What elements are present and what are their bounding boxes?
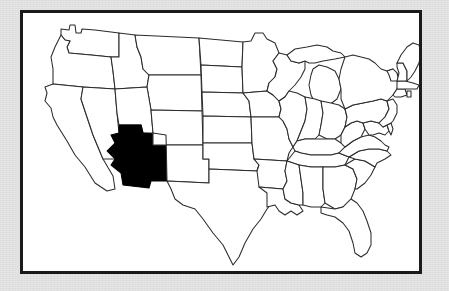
state-MA[interactable] [397,81,419,89]
state-NE[interactable] [202,92,251,117]
state-ND[interactable] [199,38,243,67]
state-KS[interactable] [203,116,252,143]
state-MT[interactable] [135,35,201,75]
state-AL[interactable] [299,165,325,207]
state-AR[interactable] [254,159,287,189]
state-OK[interactable] [203,143,259,171]
state-SD[interactable] [201,65,243,93]
state-WY[interactable] [147,75,202,111]
us-states-map [23,13,419,271]
map-figure [0,0,449,291]
state-RI[interactable] [407,91,411,97]
map-frame-border [20,10,422,274]
state-FL[interactable] [321,199,371,257]
